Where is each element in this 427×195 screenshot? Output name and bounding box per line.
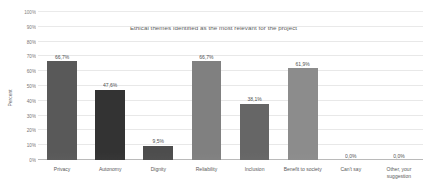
y-axis-tick-label: 20% — [27, 128, 36, 133]
x-axis-category-label-line: Privacy — [38, 166, 86, 173]
x-axis-category-label: Reliability — [182, 162, 230, 173]
bar-value-label: 9,5% — [134, 138, 182, 144]
x-axis-category-label: Autonomy — [86, 162, 134, 173]
bar-slot: 61,9% — [279, 12, 327, 160]
y-axis-tick-label: 90% — [27, 24, 36, 29]
y-axis-tick-label: 100% — [24, 10, 36, 15]
bar-chart: Ethical themes identified as the most re… — [0, 0, 427, 195]
bar[interactable] — [192, 61, 222, 160]
y-axis-tick-label: 0% — [29, 158, 36, 163]
x-axis-category-label-line: Other, your — [375, 166, 423, 173]
x-axis-category-labels: PrivacyAutonomyDignityReliabilityInclusi… — [38, 162, 423, 193]
x-axis-category-label: Dignity — [134, 162, 182, 173]
bar-value-label: 66,7% — [38, 54, 86, 60]
x-axis-category-label-line: Dignity — [134, 166, 182, 173]
x-axis-category-label-line: Autonomy — [86, 166, 134, 173]
bar-slot: 9,5% — [134, 12, 182, 160]
y-axis-tick-labels: 0%10%20%30%40%50%60%70%80%90%100% — [14, 12, 38, 160]
y-axis-tick-label: 40% — [27, 98, 36, 103]
bar-value-label: 0,0% — [375, 153, 423, 159]
x-axis-category-label-line: Can't say — [327, 166, 375, 173]
bar-value-label: 47,6% — [86, 82, 134, 88]
y-axis-tick-label: 30% — [27, 113, 36, 118]
bar-value-label: 0,0% — [327, 153, 375, 159]
x-axis-category-label: Inclusion — [231, 162, 279, 173]
y-axis-tick-label: 50% — [27, 84, 36, 89]
y-axis-tick-label: 70% — [27, 54, 36, 59]
x-axis-category-label: Can't say — [327, 162, 375, 173]
bar[interactable] — [47, 61, 77, 160]
bar-slot: 38,1% — [231, 12, 279, 160]
x-axis-category-label-line: suggestion — [375, 173, 423, 180]
bar[interactable] — [240, 104, 270, 160]
x-axis-category-label-line: Benefit to society — [279, 166, 327, 173]
bar-value-label: 61,9% — [279, 61, 327, 67]
x-axis-category-label: Other, yoursuggestion — [375, 162, 423, 179]
bar[interactable] — [143, 146, 173, 160]
bar-slot: 0,0% — [327, 12, 375, 160]
x-axis-category-label-line: Inclusion — [231, 166, 279, 173]
y-axis-tick-label: 80% — [27, 39, 36, 44]
plot-area: 66,7%47,6%9,5%66,7%38,1%61,9%0,0%0,0% — [38, 12, 423, 160]
bar-value-label: 66,7% — [182, 54, 230, 60]
bar-slot: 47,6% — [86, 12, 134, 160]
x-axis-category-label: Benefit to society — [279, 162, 327, 173]
x-axis-category-label-line: Reliability — [182, 166, 230, 173]
y-axis-title: Percent — [7, 89, 13, 106]
bar-slot: 66,7% — [38, 12, 86, 160]
y-axis-tick-label: 60% — [27, 69, 36, 74]
bar-series: 66,7%47,6%9,5%66,7%38,1%61,9%0,0%0,0% — [38, 12, 423, 160]
bar-value-label: 38,1% — [231, 96, 279, 102]
bar[interactable] — [95, 90, 125, 160]
bar-slot: 66,7% — [182, 12, 230, 160]
bar[interactable] — [288, 68, 318, 160]
x-axis-category-label: Privacy — [38, 162, 86, 173]
bar-slot: 0,0% — [375, 12, 423, 160]
y-axis-tick-label: 10% — [27, 143, 36, 148]
